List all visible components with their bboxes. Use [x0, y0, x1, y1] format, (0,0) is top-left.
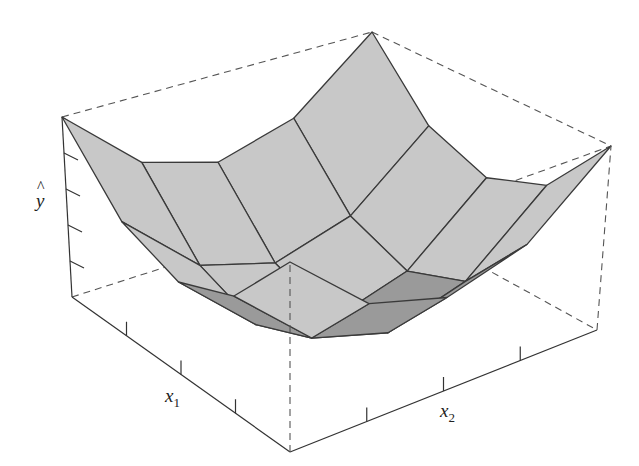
z-axis-tick	[68, 225, 82, 232]
z-axis-tick	[66, 189, 80, 196]
z-axis-line	[62, 117, 72, 297]
z-axis-tick	[64, 153, 78, 160]
z-axis-label: y^	[36, 190, 44, 212]
x1-axis-label: x1	[165, 385, 180, 411]
z-axis-tick	[70, 261, 84, 268]
box-edge	[597, 146, 611, 330]
x2-axis-label: x2	[440, 400, 455, 426]
surface-plot	[0, 0, 639, 466]
x1-subscript: 1	[173, 395, 180, 410]
x2-subscript: 2	[448, 410, 455, 425]
hat-accent: ^	[37, 178, 45, 196]
